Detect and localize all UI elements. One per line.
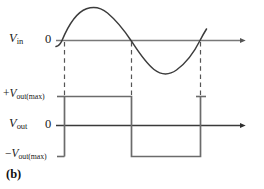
- vout-max-positive-label: +Vout(max): [3, 88, 45, 100]
- vin-axis-label: Vin: [9, 32, 23, 45]
- vout-zero-label: 0: [45, 118, 51, 131]
- vout-subscript: out: [17, 121, 28, 131]
- vout-axis-label: Vout: [9, 117, 27, 130]
- vin-zero-label: 0: [45, 33, 51, 46]
- vout-max-negative-symbol: V: [12, 147, 19, 159]
- square-output-curve: [65, 97, 201, 157]
- comparator-waveform-figure: Vin 0 +Vout(max) Vout 0 −Vout(max) (b): [0, 0, 264, 189]
- vout-max-negative-label: −Vout(max): [5, 148, 47, 160]
- vout-max-negative-subscript: out(max): [19, 152, 47, 161]
- panel-caption: (b): [6, 168, 21, 181]
- vout-max-positive-subscript: out(max): [17, 92, 45, 101]
- vin-subscript: in: [17, 36, 23, 46]
- vout-symbol: V: [9, 116, 17, 130]
- vin-symbol: V: [9, 31, 17, 45]
- vout-max-positive-symbol: V: [10, 87, 17, 99]
